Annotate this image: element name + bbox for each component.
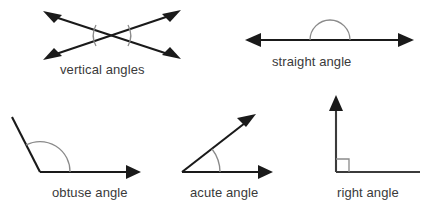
straight-angle-figure: [245, 20, 414, 47]
right-angle-square-marker-icon: [336, 159, 349, 172]
acute-angle-ray-diagonal: [182, 123, 245, 172]
acute-angle-arc: [212, 149, 220, 172]
label-straight-angle: straight angle: [272, 54, 351, 69]
straight-angle-arc: [310, 20, 350, 40]
label-right-angle: right angle: [337, 185, 399, 200]
arrowhead-up-right-icon: [237, 114, 256, 127]
label-acute-angle: acute angle: [190, 185, 258, 200]
right-angle-figure: [329, 95, 420, 172]
obtuse-angle-figure: [12, 117, 141, 179]
arrowhead-right-icon: [398, 33, 414, 47]
arrowhead-up-left-icon: [43, 11, 62, 23]
label-vertical-angles: vertical angles: [60, 62, 145, 77]
arrowhead-left-icon: [245, 33, 261, 47]
arrowhead-down-left-icon: [43, 48, 62, 60]
vertical-angles-figure: [43, 10, 181, 60]
acute-angle-figure: [182, 114, 273, 179]
vertical-angle-arc-left: [93, 25, 96, 46]
arrowhead-right-icon: [126, 165, 141, 179]
angles-diagram: vertical angles straight angle obtuse an…: [0, 0, 424, 219]
arrowhead-up-right-icon: [162, 10, 181, 22]
arrowhead-up-icon: [329, 95, 343, 111]
arrowhead-right-icon: [258, 165, 273, 179]
arrowhead-down-right-icon: [162, 47, 181, 59]
label-obtuse-angle: obtuse angle: [52, 185, 128, 200]
